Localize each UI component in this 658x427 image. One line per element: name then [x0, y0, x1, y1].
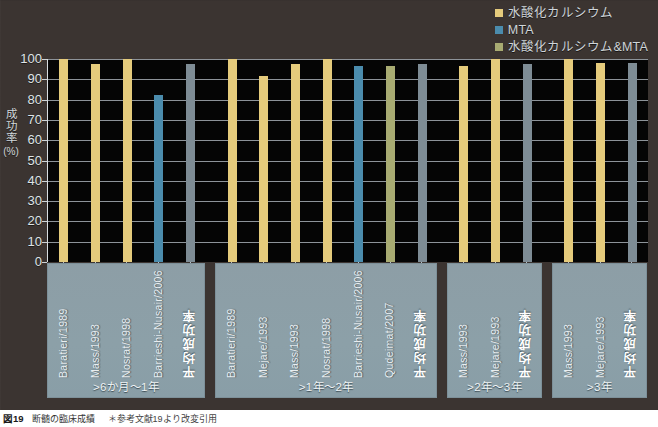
gridline	[48, 221, 648, 222]
gridline	[48, 242, 648, 243]
bar-avg	[418, 64, 427, 262]
x-group-header: >6か月〜1年	[48, 378, 204, 394]
bar-ca	[123, 59, 132, 262]
legend-item-both: 水酸化カルシウム&MTA	[495, 40, 648, 54]
y-axis-tick	[42, 201, 47, 202]
y-axis-tick	[42, 79, 47, 80]
bar-mta	[354, 66, 363, 262]
x-label-study: Barrieshi-Nusair/2006	[153, 266, 164, 378]
x-label-study: Baratieri/1989	[226, 266, 237, 378]
x-label-average: 平均成功率	[626, 266, 637, 378]
y-axis-tick-label: 30	[4, 194, 42, 207]
legend-swatch-icon	[495, 9, 503, 17]
y-axis-tick	[42, 181, 47, 182]
bar-ca	[291, 64, 300, 262]
x-label-study: Mass/1993	[90, 266, 101, 378]
y-axis-tick-label: 0	[4, 255, 42, 268]
y-axis-tick	[42, 161, 47, 162]
bar-mta	[154, 95, 163, 262]
bar-ca	[596, 63, 605, 262]
y-axis-tick-label: 80	[4, 93, 42, 106]
gridline	[48, 140, 648, 141]
x-label-study: Mass/1993	[458, 266, 469, 378]
figure-caption-note: ＊参考文献19より改変引用	[108, 414, 217, 424]
bar-ca	[91, 64, 100, 262]
legend-item-mta: MTA	[495, 23, 648, 37]
y-axis-tick	[42, 242, 47, 243]
gridline	[48, 59, 648, 60]
y-axis-tick-label: 100	[4, 52, 42, 65]
bar-ca	[491, 59, 500, 262]
x-axis-label-band: >6か月〜1年Baratieri/1989Mass/1993Nosrat/199…	[47, 263, 647, 398]
x-group-panel: >3年Mass/1993Mejare/1993平均成功率	[552, 263, 647, 398]
bar-ca	[59, 59, 68, 262]
y-axis-tick-label: 50	[4, 154, 42, 167]
x-group-panel: >6か月〜1年Baratieri/1989Mass/1993Nosrat/199…	[47, 263, 205, 398]
x-label-average: 平均成功率	[521, 266, 532, 378]
x-label-average: 平均成功率	[416, 266, 427, 378]
x-label-study: Mejare/1993	[595, 266, 606, 378]
x-group-panel: >1年〜2年Baratieri/1989Mejare/1993Mass/1993…	[215, 263, 437, 398]
y-axis-tick-label: 10	[4, 235, 42, 248]
plot-area	[47, 59, 648, 262]
gridline	[48, 79, 648, 80]
y-axis-tick-label: 40	[4, 174, 42, 187]
gridline	[48, 201, 648, 202]
figure-panel: 水酸化カルシウムMTA水酸化カルシウム&MTA 成功率 (%) 01020304…	[0, 0, 658, 410]
bar-both	[386, 66, 395, 262]
x-group-header: >1年〜2年	[216, 378, 436, 394]
x-label-study: Nosrat/1998	[321, 266, 332, 378]
x-label-average: 平均成功率	[185, 266, 196, 378]
bar-ca	[564, 59, 573, 262]
y-axis-tick-label: 90	[4, 72, 42, 85]
y-axis-tick	[42, 140, 47, 141]
gridline	[48, 120, 648, 121]
x-group-header: >3年	[553, 378, 646, 394]
bar-ca	[228, 59, 237, 262]
bar-ca	[259, 76, 268, 262]
y-axis-tick-label: 70	[4, 113, 42, 126]
x-group-header: >2年〜3年	[448, 378, 541, 394]
x-label-study: Mass/1993	[563, 266, 574, 378]
bar-avg	[523, 64, 532, 262]
figure-caption-text: 断髄の臨床成績	[32, 414, 95, 424]
legend-label: 水酸化カルシウム	[508, 6, 614, 20]
legend-label: MTA	[508, 23, 534, 37]
bar-avg	[186, 64, 195, 262]
gridline	[48, 100, 648, 101]
y-axis-tick	[42, 59, 47, 60]
y-axis-tick	[42, 120, 47, 121]
x-label-study: Mass/1993	[289, 266, 300, 378]
legend-label: 水酸化カルシウム&MTA	[508, 40, 648, 54]
x-group-panel: >2年〜3年Mass/1993Mejare/1993平均成功率	[447, 263, 542, 398]
gridline	[48, 161, 648, 162]
chart-legend: 水酸化カルシウムMTA水酸化カルシウム&MTA	[495, 6, 648, 54]
bar-avg	[628, 63, 637, 262]
x-label-study: Mejare/1993	[258, 266, 269, 378]
legend-swatch-icon	[495, 43, 503, 51]
bar-ca	[323, 59, 332, 262]
y-axis-tick	[42, 221, 47, 222]
figure-number: 図19	[3, 413, 24, 424]
x-label-study: Mejare/1993	[490, 266, 501, 378]
y-axis-tick	[42, 100, 47, 101]
bar-ca	[459, 66, 468, 262]
x-label-study: Barrieshi-Nusair/2006	[353, 266, 364, 378]
y-axis-tick-label: 20	[4, 214, 42, 227]
y-axis-tick-label: 60	[4, 133, 42, 146]
x-label-study: Nosrat/1998	[121, 266, 132, 378]
gridline	[48, 181, 648, 182]
legend-swatch-icon	[495, 26, 503, 34]
plot-wrapper: 0102030405060708090100	[47, 59, 647, 262]
x-label-study: Qudeimat/2007	[384, 266, 395, 378]
figure-caption: 図19 断髄の臨床成績 ＊参考文献19より改変引用	[0, 410, 658, 427]
x-label-study: Baratieri/1989	[58, 266, 69, 378]
legend-item-ca: 水酸化カルシウム	[495, 6, 648, 20]
